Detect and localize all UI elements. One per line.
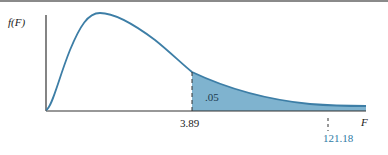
tail-area-label: .05 — [205, 91, 219, 103]
observed-value-label: 121.18 — [323, 132, 353, 144]
critical-value-label: 3.89 — [180, 117, 199, 129]
y-axis-label: f(F) — [8, 16, 25, 28]
x-axis-label: F — [361, 116, 368, 128]
